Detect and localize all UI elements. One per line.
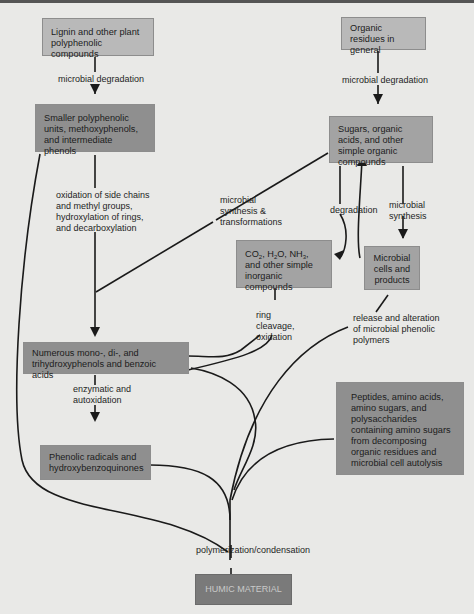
box-inorganic-co2: CO bbox=[245, 249, 259, 259]
connector-lines bbox=[0, 0, 474, 614]
box-peptides: Peptides, amino acids, amino sugars, and… bbox=[336, 382, 464, 475]
label-enzymatic: enzymatic and autoxidation bbox=[73, 384, 133, 406]
box-lignin-text: Lignin and other plant polyphenolic comp… bbox=[51, 27, 139, 59]
label-microbial-synthesis-transformations: microbial synthesis & transformations bbox=[220, 195, 290, 228]
box-lignin: Lignin and other plant polyphenolic comp… bbox=[42, 18, 154, 56]
label-release-alteration-text: release and alteration of microbial phen… bbox=[353, 313, 440, 345]
box-sugars-text: Sugars, organic acids, and other simple … bbox=[338, 124, 403, 167]
label-ring-cleavage: ring cleavage, oxidation bbox=[256, 310, 308, 343]
box-peptides-text: Peptides, amino acids, amino sugars, and… bbox=[351, 392, 451, 468]
box-organic-residues: Organic residues in general bbox=[341, 17, 426, 50]
box-microbial-cells-text: Microbial cells and products bbox=[374, 253, 411, 285]
label-polymerization: polymerization/condensation bbox=[196, 545, 310, 556]
label-microbial-synthesis-text: microbial synthesis bbox=[389, 200, 427, 221]
label-microbial-degradation-right: microbial degradation bbox=[342, 75, 428, 86]
label-microbial-synthesis-transformations-text: microbial synthesis & transformations bbox=[220, 195, 282, 227]
box-smaller-polyphenolic-text: Smaller polyphenolic units, methoxypheno… bbox=[44, 113, 138, 156]
box-microbial-cells: Microbial cells and products bbox=[364, 246, 420, 290]
label-oxidation: oxidation of side chains and methyl grou… bbox=[56, 190, 156, 234]
label-microbial-degradation-left: microbial degradation bbox=[58, 74, 144, 85]
box-numerous-phenols: Numerous mono-, di-, and trihydroxypheno… bbox=[23, 342, 189, 374]
label-degradation: degradation bbox=[330, 205, 378, 216]
label-ring-cleavage-text: ring cleavage, oxidation bbox=[256, 310, 295, 342]
box-inorganic: CO2, H2O, NH3, and other simple inorgani… bbox=[236, 240, 332, 288]
box-phenolic-radicals-text: Phenolic radicals and hydroxybenzoquinon… bbox=[49, 452, 144, 473]
box-inorganic-h2o-a: , H bbox=[262, 249, 274, 259]
box-humic-material: HUMIC MATERIAL bbox=[195, 574, 292, 605]
label-microbial-synthesis: microbial synthesis bbox=[389, 200, 439, 222]
box-sugars: Sugars, organic acids, and other simple … bbox=[329, 116, 433, 163]
box-humic-material-text: HUMIC MATERIAL bbox=[205, 584, 281, 594]
label-enzymatic-text: enzymatic and autoxidation bbox=[73, 384, 131, 405]
box-smaller-polyphenolic: Smaller polyphenolic units, methoxypheno… bbox=[35, 104, 155, 152]
label-oxidation-text: oxidation of side chains and methyl grou… bbox=[56, 190, 150, 233]
label-release-alteration: release and alteration of microbial phen… bbox=[353, 313, 445, 346]
box-inorganic-h2o-b: O, NH bbox=[277, 249, 303, 259]
box-phenolic-radicals: Phenolic radicals and hydroxybenzoquinon… bbox=[40, 445, 151, 480]
